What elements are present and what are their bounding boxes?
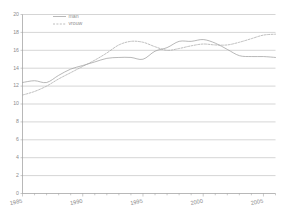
y-tick-label: 12	[13, 82, 19, 88]
x-tick-label: 1990	[70, 198, 83, 206]
y-tick-label: 6	[16, 136, 19, 142]
gridlines	[23, 15, 276, 176]
x-tick-label: 2000	[190, 198, 203, 206]
y-tick-label: 0	[16, 190, 19, 196]
x-tick-label: 2005	[250, 198, 263, 206]
x-tick-label: 1985	[9, 198, 22, 206]
series-line-man	[23, 40, 276, 83]
y-tick-label: 18	[13, 29, 19, 35]
y-tick-label: 16	[13, 47, 19, 53]
x-axis-labels: 19851990199520002005	[9, 198, 263, 206]
chart-container: 02468101214161820 19851990199520002005 m…	[0, 0, 290, 219]
y-tick-label: 2	[16, 172, 19, 178]
x-tick-label: 1995	[130, 198, 143, 206]
y-tick-label: 14	[13, 65, 19, 71]
y-tick-label: 20	[13, 11, 19, 17]
legend: manvrouw	[53, 13, 83, 27]
y-tick-label: 4	[16, 154, 19, 160]
y-axis-labels: 02468101214161820	[13, 11, 19, 196]
line-chart: 02468101214161820 19851990199520002005 m…	[0, 0, 290, 219]
x-axis-ticks	[23, 194, 276, 197]
legend-label-vrouw: vrouw	[69, 20, 83, 26]
y-tick-label: 8	[16, 118, 19, 124]
legend-label-man: man	[69, 13, 79, 19]
y-tick-label: 10	[13, 100, 19, 106]
